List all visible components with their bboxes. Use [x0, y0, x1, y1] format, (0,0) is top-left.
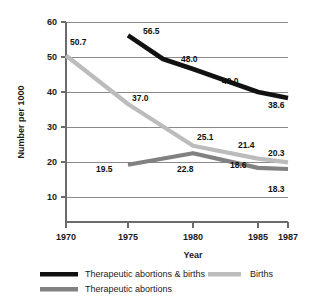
y-tick-label-60: 60 [47, 17, 57, 27]
x-tick-label-1980: 1980 [183, 232, 203, 242]
y-tick-label-10: 10 [47, 192, 57, 202]
value-label-s2-1975: 37.0 [132, 93, 149, 103]
chart-figure: 60 50 40 30 20 10 1970 1975 1980 1985 19… [0, 0, 314, 308]
value-labels-therapeutic-abortions: 19.5 22.8 18.6 18.3 [96, 160, 285, 194]
value-label-s2-1987: 20.3 [268, 148, 285, 158]
value-label-s3-1980: 22.8 [177, 164, 194, 174]
value-label-s2-1980: 25.1 [197, 132, 214, 142]
chart-legend: Therapeutic abortions & births Births Th… [40, 269, 274, 294]
x-axis-title: Year [183, 250, 203, 260]
x-tick-label-1987: 1987 [278, 232, 298, 242]
value-labels-therapeutic-abortions-and-births: 56.5 48.0 40.0 38.6 [143, 26, 285, 110]
legend-label-therapeutic-abortions: Therapeutic abortions [85, 284, 173, 294]
value-label-s3-1975: 19.5 [96, 164, 113, 174]
value-labels-births: 50.7 37.0 25.1 21.4 20.3 [70, 37, 285, 158]
legend-swatch-births [208, 272, 241, 277]
y-tick-label-50: 50 [47, 52, 57, 62]
legend-label-births: Births [250, 269, 274, 279]
value-label-s1-1985: 40.0 [222, 76, 239, 86]
x-axis-ticks [66, 222, 288, 228]
x-tick-label-1975: 1975 [118, 232, 138, 242]
x-tick-label-1970: 1970 [56, 232, 76, 242]
series-line-therapeutic-abortions-and-births [128, 35, 288, 98]
y-tick-label-30: 30 [47, 122, 57, 132]
axis-lines [66, 22, 288, 222]
value-label-s2-1970: 50.7 [70, 37, 87, 47]
y-tick-label-40: 40 [47, 87, 57, 97]
series-line-births [66, 56, 288, 163]
y-axis-tick-labels: 60 50 40 30 20 10 [47, 17, 57, 202]
x-tick-label-1985: 1985 [248, 232, 268, 242]
value-label-s3-1987: 18.3 [268, 184, 285, 194]
value-label-s1-1980: 48.0 [181, 54, 198, 64]
legend-label-therapeutic-abortions-and-births: Therapeutic abortions & births [85, 269, 206, 279]
value-label-s3-1985: 18.6 [230, 160, 247, 170]
value-label-s1-1975: 56.5 [143, 26, 160, 36]
legend-swatch-therapeutic-abortions-and-births [40, 272, 78, 277]
value-label-s1-1987: 38.6 [268, 100, 285, 110]
y-tick-label-20: 20 [47, 157, 57, 167]
y-axis-ticks [61, 22, 66, 197]
x-axis-tick-labels: 1970 1975 1980 1985 1987 [56, 232, 298, 242]
legend-swatch-therapeutic-abortions [40, 287, 78, 292]
y-axis-title: Number per 1000 [16, 85, 26, 158]
line-chart: 60 50 40 30 20 10 1970 1975 1980 1985 19… [0, 0, 314, 308]
value-label-s2-1985: 21.4 [238, 140, 255, 150]
